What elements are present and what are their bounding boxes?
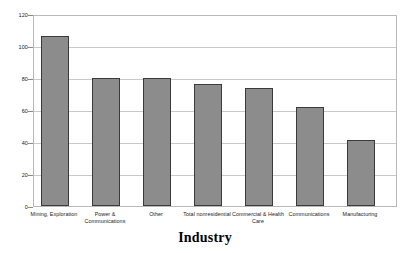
chart-page: 120 100 80 60 40 20 0 Mining, Exploratio… bbox=[0, 0, 410, 253]
y-tick-label-80: 80 bbox=[0, 76, 28, 82]
y-tick-label-20: 20 bbox=[0, 172, 28, 178]
x-axis-title: Industry bbox=[0, 230, 410, 246]
y-tick-mark-0 bbox=[28, 207, 33, 208]
y-tick-label-0: 0 bbox=[0, 204, 28, 210]
bar-power-communications bbox=[92, 78, 120, 206]
bar-mining-exploration bbox=[41, 36, 69, 206]
y-tick-label-60: 60 bbox=[0, 108, 28, 114]
bar-other bbox=[143, 78, 171, 206]
x-tick-label-manufacturing: Manufacturing bbox=[329, 211, 391, 218]
y-tick-label-120: 120 bbox=[0, 12, 28, 18]
bar-manufacturing bbox=[347, 140, 375, 206]
y-tick-label-100: 100 bbox=[0, 44, 28, 50]
bar-total-nonresidential bbox=[194, 84, 222, 206]
bar-commercial-health-care bbox=[245, 88, 273, 206]
bar-communications bbox=[296, 107, 324, 206]
gridline-100 bbox=[34, 47, 396, 48]
y-tick-label-40: 40 bbox=[0, 140, 28, 146]
gridline-80 bbox=[34, 79, 396, 80]
plot-area bbox=[33, 15, 397, 207]
